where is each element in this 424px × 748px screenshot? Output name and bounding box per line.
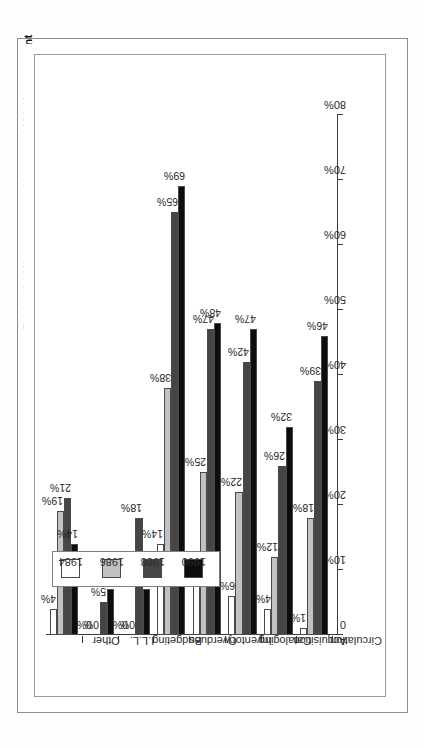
bar-circulation-1988 xyxy=(314,382,321,636)
bar-value-label: 38% xyxy=(150,372,171,384)
bar-circulation-1986 xyxy=(307,518,314,635)
bar-acquisition-1984 xyxy=(264,609,271,635)
legend-label-1990: 1990 xyxy=(182,556,206,568)
bar-value-label: 39% xyxy=(300,366,321,378)
legend-item-1986: 1986 xyxy=(98,550,140,586)
bar-circulation-1990 xyxy=(321,336,328,635)
bar-cataloging-1990 xyxy=(250,330,257,636)
bar-value-label: 5% xyxy=(91,587,106,599)
bar-value-label: 42% xyxy=(228,346,249,358)
bar-value-label: 12% xyxy=(257,541,278,553)
bar-value-label: 69% xyxy=(164,171,185,183)
bar-value-label: 1% xyxy=(291,613,306,625)
bar-other-1984 xyxy=(50,609,57,635)
bar-value-label: 32% xyxy=(271,411,292,423)
value-axis-tick xyxy=(337,374,343,375)
legend-item-1990: 1990 xyxy=(180,550,222,586)
bar-value-label: 0% xyxy=(120,619,135,631)
value-axis-tick-label: 0 xyxy=(340,619,346,631)
bar-value-label: 0% xyxy=(84,619,99,631)
bar-value-label: 65% xyxy=(157,197,178,209)
value-axis-tick xyxy=(337,439,343,440)
bar-inventory-1988 xyxy=(207,330,214,636)
value-axis-tick xyxy=(337,504,343,505)
value-axis-tick-label: 80% xyxy=(324,99,346,111)
bar-value-label: 4% xyxy=(256,593,271,605)
bar-value-label: 26% xyxy=(264,450,285,462)
bar-value-label: 46% xyxy=(307,320,328,332)
chart-legend: 1984198619881990 xyxy=(52,551,220,587)
chart-stage: 010%20%30%40%50%60%70%80% OtherI.L.L.Bud… xyxy=(24,44,399,705)
bar-acquisition-1988 xyxy=(278,466,285,635)
bar-cataloging-1988 xyxy=(243,362,250,635)
bar-value-label: 47% xyxy=(235,314,256,326)
bar-cataloging-1984 xyxy=(228,596,235,635)
legend-item-1984: 1984 xyxy=(57,550,99,586)
value-axis-tick xyxy=(337,309,343,310)
legend-item-1988: 1988 xyxy=(139,550,181,586)
bar-value-label: 19% xyxy=(42,496,63,508)
bar-value-label: 21% xyxy=(50,483,71,495)
value-axis-tick xyxy=(337,569,343,570)
legend-label-1988: 1988 xyxy=(141,556,165,568)
value-axis-tick xyxy=(337,114,343,115)
bar-value-label: 18% xyxy=(293,502,314,514)
bar-i-l-l-1988 xyxy=(100,603,107,636)
bar-cataloging-1986 xyxy=(235,492,242,635)
bar-value-label: 48% xyxy=(200,307,221,319)
category-label-circulation: Circulation xyxy=(316,635,396,647)
bar-value-label: 22% xyxy=(221,476,242,488)
bar-value-label: 25% xyxy=(185,457,206,469)
value-axis-tick xyxy=(337,179,343,180)
bar-value-label: 4% xyxy=(41,593,56,605)
bar-overdues-1986 xyxy=(164,388,171,635)
value-axis-tick xyxy=(337,244,343,245)
bar-value-label: 14% xyxy=(57,528,78,540)
bar-circulation-1984 xyxy=(300,629,307,636)
bar-value-label: 18% xyxy=(121,502,142,514)
bar-acquisition-1986 xyxy=(271,557,278,635)
chart-stage-wrapper: 010%20%30%40%50%60%70%80% OtherI.L.L.Bud… xyxy=(24,44,399,705)
legend-label-1986: 1986 xyxy=(100,556,124,568)
bar-value-label: 6% xyxy=(220,580,235,592)
bar-acquisition-1990 xyxy=(286,427,293,635)
bar-value-label: 14% xyxy=(142,528,163,540)
bar-budgeting-1990 xyxy=(143,590,150,636)
legend-label-1984: 1984 xyxy=(59,556,83,568)
page-canvas: Table 18 / Microcomputer Usage in LMC Ma… xyxy=(0,0,424,748)
